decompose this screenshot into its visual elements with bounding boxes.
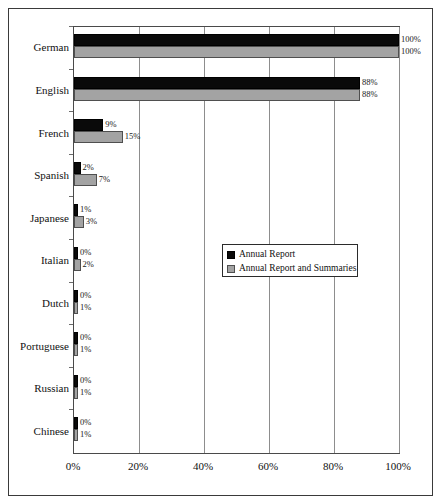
bar-annual-report-and-summaries xyxy=(74,259,81,271)
bar-annual-report xyxy=(74,77,360,89)
bar-annual-report xyxy=(74,162,81,174)
y-axis-label-portuguese: Portuguese xyxy=(1,340,69,352)
legend-item-annual-report: Annual Report xyxy=(227,248,353,261)
bar-value-label: 0% xyxy=(80,375,91,385)
black-swatch-icon xyxy=(227,251,235,259)
bar-annual-report-and-summaries xyxy=(74,429,78,441)
y-axis-label-spanish: Spanish xyxy=(1,169,69,181)
bar-value-label: 0% xyxy=(80,332,91,342)
chart-figure: GermanEnglishFrenchSpanishJapaneseItalia… xyxy=(0,0,442,504)
bar-annual-report-and-summaries xyxy=(74,46,399,58)
bar-annual-report xyxy=(74,247,78,259)
bar-value-label: 15% xyxy=(125,131,141,141)
bar-value-label: 0% xyxy=(80,247,91,257)
bar-value-label: 0% xyxy=(80,290,91,300)
bar-annual-report-and-summaries xyxy=(74,302,78,314)
bar-annual-report xyxy=(74,119,103,131)
bar-annual-report xyxy=(74,375,78,387)
bar-annual-report xyxy=(74,290,78,302)
bar-value-label: 1% xyxy=(80,429,91,439)
bar-annual-report-and-summaries xyxy=(74,344,78,356)
y-axis-label-chinese: Chinese xyxy=(1,425,69,437)
bar-annual-report-and-summaries xyxy=(74,216,84,228)
x-axis-tick-label: 60% xyxy=(243,460,293,473)
legend-label: Annual Report xyxy=(239,249,295,260)
bar-value-label: 1% xyxy=(80,204,91,214)
y-axis-label-dutch: Dutch xyxy=(1,297,69,309)
plot-area: 100%100%88%88%9%15%2%7%1%3%0%2%0%1%0%1%0… xyxy=(73,26,400,454)
bar-annual-report xyxy=(74,332,78,344)
bar-value-label: 100% xyxy=(401,34,421,44)
y-axis-label-german: German xyxy=(1,41,69,53)
bar-annual-report-and-summaries xyxy=(74,387,78,399)
bar-annual-report-and-summaries xyxy=(74,174,97,186)
category-band: 0%1% xyxy=(74,410,399,453)
category-band: 0%1% xyxy=(74,368,399,411)
x-axis-tick-label: 0% xyxy=(48,460,98,473)
y-axis-label-japanese: Japanese xyxy=(1,212,69,224)
y-axis-label-russian: Russian xyxy=(1,382,69,394)
category-band: 9%15% xyxy=(74,112,399,155)
category-band: 100%100% xyxy=(74,27,399,70)
legend-item-annual-report-and-summaries: Annual Report and Summaries xyxy=(227,262,353,275)
bar-value-label: 2% xyxy=(83,162,94,172)
x-axis-tick-label: 80% xyxy=(308,460,358,473)
bar-annual-report xyxy=(74,417,78,429)
y-axis-label-french: French xyxy=(1,127,69,139)
bar-value-label: 1% xyxy=(80,344,91,354)
bar-annual-report-and-summaries xyxy=(74,89,360,101)
bar-value-label: 88% xyxy=(362,77,378,87)
y-axis-label-italian: Italian xyxy=(1,254,69,266)
category-band: 0%1% xyxy=(74,325,399,368)
category-band: 2%7% xyxy=(74,155,399,198)
bar-annual-report xyxy=(74,204,78,216)
bar-value-label: 88% xyxy=(362,89,378,99)
bar-value-label: 0% xyxy=(80,417,91,427)
x-axis-tick-label: 20% xyxy=(113,460,163,473)
bar-value-label: 7% xyxy=(99,174,110,184)
legend-label: Annual Report and Summaries xyxy=(239,263,356,274)
bar-value-label: 1% xyxy=(80,302,91,312)
bar-value-label: 3% xyxy=(86,216,97,226)
gridline xyxy=(399,27,400,453)
bar-value-label: 9% xyxy=(105,119,116,129)
bar-value-label: 2% xyxy=(83,259,94,269)
y-axis-label-english: English xyxy=(1,84,69,96)
y-axis-category-labels: GermanEnglishFrenchSpanishJapaneseItalia… xyxy=(0,26,69,454)
category-band: 1%3% xyxy=(74,197,399,240)
x-axis-tick-label: 100% xyxy=(373,460,423,473)
x-axis-tick-label: 40% xyxy=(178,460,228,473)
chart-legend: Annual Report Annual Report and Summarie… xyxy=(222,244,358,277)
category-band: 0%1% xyxy=(74,283,399,326)
category-band: 88%88% xyxy=(74,70,399,113)
gray-swatch-icon xyxy=(227,265,235,273)
bar-annual-report-and-summaries xyxy=(74,131,123,143)
x-axis-tick-labels: 0%20%40%60%80%100% xyxy=(0,460,442,480)
bar-value-label: 100% xyxy=(401,46,421,56)
bar-annual-report xyxy=(74,34,399,46)
bar-value-label: 1% xyxy=(80,387,91,397)
